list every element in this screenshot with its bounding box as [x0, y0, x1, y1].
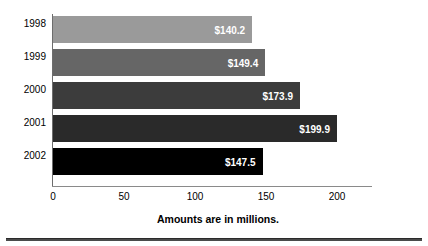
category-label-2002: 2002	[2, 150, 46, 161]
x-tick-label-0: 0	[50, 191, 56, 202]
x-tick-label-100: 100	[187, 191, 204, 202]
bar-value-label-2000: $173.9	[262, 90, 293, 101]
bar-1998: $140.2	[53, 16, 252, 43]
bar-2000: $173.9	[53, 82, 300, 109]
category-label-1999: 1999	[2, 51, 46, 62]
plot-area: $140.2 $149.4 $173.9 $199.9 $147.5	[53, 14, 369, 186]
category-label-1998: 1998	[2, 18, 46, 29]
category-label-2000: 2000	[2, 84, 46, 95]
x-tick-label-200: 200	[329, 191, 346, 202]
bar-2002: $147.5	[53, 148, 263, 175]
bar-2001: $199.9	[53, 115, 337, 142]
category-axis-labels: 1998 1999 2000 2001 2002	[0, 14, 46, 186]
bar-value-label-2002: $147.5	[225, 156, 256, 167]
chart-caption-text: Amounts are in millions.	[157, 213, 279, 225]
x-axis-tick-labels: 0 50 100 150 200	[0, 191, 428, 205]
x-axis-line	[52, 186, 372, 187]
bottom-divider	[6, 238, 422, 241]
x-tick-label-150: 150	[258, 191, 275, 202]
bar-value-label-1998: $140.2	[215, 24, 246, 35]
bar-value-label-1999: $149.4	[228, 57, 259, 68]
x-tick-label-50: 50	[118, 191, 129, 202]
bar-chart-figure: 1998 1999 2000 2001 2002 $140.2 $149.4 $…	[0, 0, 428, 246]
bar-1999: $149.4	[53, 49, 265, 76]
category-label-2001: 2001	[2, 117, 46, 128]
chart-caption: Amounts are in millions.	[0, 213, 428, 225]
bar-value-label-2001: $199.9	[299, 123, 330, 134]
